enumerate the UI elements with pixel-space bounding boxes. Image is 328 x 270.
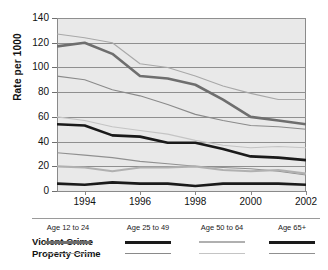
- y-tick-mark-100: [52, 67, 57, 68]
- legend-swatch-violent-crime-age-12-to-24: [45, 241, 91, 244]
- legend-swatch-violent-crime-age-25-to-49: [125, 241, 171, 244]
- y-tick-label-140: 140: [9, 12, 49, 23]
- series-line-property-crime-age-12-to-24: [57, 34, 306, 100]
- legend-swatch-property-crime-age-12-to-24: [45, 253, 91, 254]
- y-tick-mark-140: [52, 18, 57, 19]
- series-line-property-crime-age-25-to-49: [57, 76, 306, 129]
- legend-swatch-violent-crime-age-65-: [269, 241, 315, 244]
- x-tick-label-1996: 1996: [120, 196, 160, 207]
- legend-swatch-property-crime-age-50-to-64: [199, 253, 245, 254]
- series-line-violent-crime-age-25-to-49: [57, 124, 306, 160]
- legend-swatch-property-crime-age-25-to-49: [125, 253, 171, 254]
- series-line-violent-crime-age-65-: [57, 182, 306, 186]
- y-tick-mark-60: [52, 117, 57, 118]
- y-tick-label-0: 0: [9, 185, 49, 196]
- series-line-violent-crime-age-50-to-64: [57, 166, 306, 173]
- y-tick-label-120: 120: [9, 37, 49, 48]
- y-tick-label-20: 20: [9, 160, 49, 171]
- x-tick-label-2000: 2000: [231, 196, 271, 207]
- x-tick-label-2002: 2002: [286, 196, 326, 207]
- x-tick-mark-2000: [251, 191, 252, 195]
- legend: Age 12 to 24Age 25 to 49Age 50 to 64Age …: [32, 218, 320, 266]
- legend-column-2: Age 25 to 49: [111, 223, 185, 232]
- crime-rate-line-chart: Rate per 1000 020406080100120140 1994199…: [0, 0, 328, 270]
- legend-column-3: Age 50 to 64: [185, 223, 259, 232]
- y-tick-label-80: 80: [9, 86, 49, 97]
- legend-swatch-violent-crime-age-50-to-64: [199, 241, 245, 243]
- x-tick-mark-1996: [140, 191, 141, 195]
- legend-column-4: Age 65+: [255, 223, 328, 232]
- y-tick-mark-120: [52, 43, 57, 44]
- y-tick-label-40: 40: [9, 136, 49, 147]
- x-axis-line: [57, 191, 306, 192]
- x-tick-mark-1998: [195, 191, 196, 195]
- legend-divider: [32, 218, 320, 219]
- legend-column-1: Age 12 to 24: [31, 223, 105, 232]
- y-tick-mark-80: [52, 92, 57, 93]
- legend-swatch-property-crime-age-65-: [269, 253, 315, 254]
- plot-area: [57, 18, 306, 191]
- y-tick-mark-20: [52, 166, 57, 167]
- x-tick-label-1994: 1994: [65, 196, 105, 207]
- y-tick-label-60: 60: [9, 111, 49, 122]
- y-tick-label-100: 100: [9, 61, 49, 72]
- y-tick-mark-40: [52, 142, 57, 143]
- x-tick-mark-1994: [85, 191, 86, 195]
- series-lines: [57, 18, 306, 191]
- x-tick-mark-2002: [306, 191, 307, 195]
- x-tick-label-1998: 1998: [175, 196, 215, 207]
